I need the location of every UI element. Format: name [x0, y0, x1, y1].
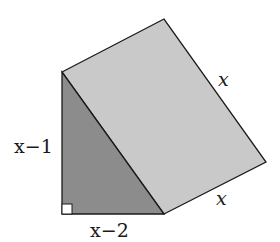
label-depth-top: x: [218, 68, 229, 90]
right-angle-marker: [62, 204, 72, 214]
prism-diagram: x−1 x−2 x x: [0, 0, 280, 242]
label-depth-bottom: x: [216, 187, 227, 209]
label-vertical-leg: x−1: [14, 135, 53, 157]
label-horizontal-leg: x−2: [90, 219, 129, 241]
